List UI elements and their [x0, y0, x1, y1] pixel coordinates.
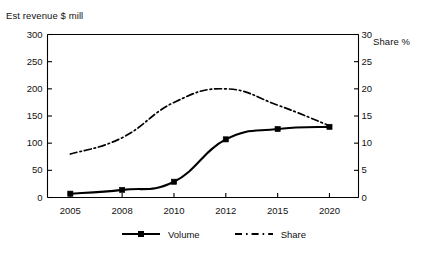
data-point-marker — [120, 187, 125, 192]
legend-item-share[interactable]: Share — [234, 228, 306, 240]
data-point-marker — [68, 191, 73, 196]
chart-legend: VolumeShare — [0, 228, 427, 240]
legend-swatch-share-icon — [234, 228, 274, 240]
plot-area — [0, 0, 427, 257]
data-point-marker — [275, 126, 280, 131]
tick-marks — [48, 35, 359, 198]
data-series-group — [68, 89, 332, 197]
chart-figure: Est revenue $ mill Share % 0501001502002… — [0, 0, 427, 257]
data-point-marker — [171, 179, 176, 184]
legend-label: Share — [281, 229, 306, 240]
series-line-volume — [70, 127, 329, 194]
series-line-share — [70, 89, 329, 154]
legend-item-volume[interactable]: Volume — [121, 228, 200, 240]
legend-swatch-volume-icon — [121, 228, 161, 240]
data-point-marker — [223, 137, 228, 142]
legend-label: Volume — [168, 229, 200, 240]
axis-frame — [48, 35, 359, 198]
